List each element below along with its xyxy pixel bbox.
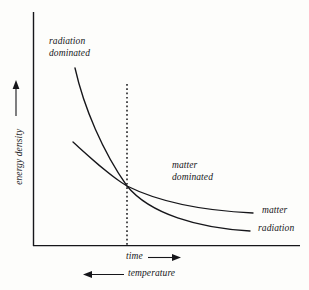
x-axis-label-temperature: temperature: [128, 268, 175, 280]
temperature-arrow-icon: [83, 271, 124, 278]
y-axis-label-energy-density: energy density: [14, 115, 26, 199]
curve-label-radiation: radiation: [258, 223, 294, 235]
radiation-curve: [75, 68, 250, 231]
annotation-radiation-dominated: radiation dominated: [49, 36, 90, 59]
time-arrow-icon: [148, 254, 181, 261]
matter-curve: [73, 142, 253, 213]
x-axis-label-time: time: [126, 251, 143, 263]
curve-label-matter: matter: [262, 205, 287, 217]
annotation-matter-dominated: matter dominated: [172, 160, 213, 183]
y-axis-arrow-icon: [13, 80, 20, 116]
cosmology-energy-density-diagram: [0, 0, 309, 290]
